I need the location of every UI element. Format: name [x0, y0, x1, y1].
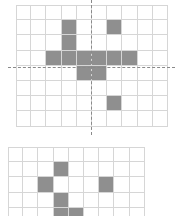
grid-cell — [114, 147, 129, 162]
grid-cell — [31, 5, 46, 20]
grid-cell — [153, 96, 168, 111]
grid-cell — [138, 66, 153, 81]
grid-cell — [8, 177, 23, 192]
grid-cell — [31, 35, 46, 50]
grid-cell — [46, 96, 61, 111]
filled-cell — [92, 66, 107, 81]
grid-cell — [130, 177, 145, 192]
filled-cell — [107, 96, 122, 111]
grid-cell — [23, 147, 38, 162]
grid-cell — [122, 20, 137, 35]
grid-cell — [138, 96, 153, 111]
grid-cell — [16, 66, 31, 81]
grid-cell — [122, 66, 137, 81]
grid-cell — [54, 147, 69, 162]
grid-cell — [69, 162, 84, 177]
grid-cell — [31, 51, 46, 66]
filled-cell — [62, 35, 77, 50]
grid-cell — [99, 193, 114, 208]
grid-cell — [16, 111, 31, 126]
grid-cell — [23, 208, 38, 216]
filled-cell — [69, 208, 84, 216]
grid-cell — [122, 81, 137, 96]
grid-cell — [138, 111, 153, 126]
grid-cell — [99, 147, 114, 162]
grid-cell — [92, 20, 107, 35]
grid-cell — [8, 162, 23, 177]
grid-cell — [153, 5, 168, 20]
grid-cell — [153, 111, 168, 126]
grid-cell — [122, 35, 137, 50]
grid-cell — [16, 5, 31, 20]
grid-cell — [23, 162, 38, 177]
grid-cell — [38, 147, 53, 162]
grid-cell — [46, 81, 61, 96]
grid-cell — [46, 35, 61, 50]
grid-cell — [92, 81, 107, 96]
grid-cell — [114, 208, 129, 216]
grid-cell — [92, 111, 107, 126]
grid-cell — [107, 111, 122, 126]
grid-cell — [84, 162, 99, 177]
grid-cell — [16, 20, 31, 35]
grid-cell — [130, 193, 145, 208]
grid-cell — [107, 66, 122, 81]
grid-cell — [38, 193, 53, 208]
grid-cell — [8, 208, 23, 216]
grid-cell — [16, 81, 31, 96]
grid-cell — [153, 81, 168, 96]
grid-cell — [46, 111, 61, 126]
grid-cell — [16, 51, 31, 66]
filled-cell — [92, 51, 107, 66]
grid-cell — [130, 147, 145, 162]
grid-cell — [16, 35, 31, 50]
grid-cell — [122, 5, 137, 20]
grid-cell — [62, 111, 77, 126]
grid-cell — [130, 208, 145, 216]
grid-cell — [138, 20, 153, 35]
filled-cell — [99, 177, 114, 192]
grid-cell — [8, 193, 23, 208]
grid-cell — [46, 20, 61, 35]
grid-cell — [84, 147, 99, 162]
filled-cell — [122, 51, 137, 66]
grid-cell — [122, 111, 137, 126]
grid-cell — [138, 81, 153, 96]
grid-cell — [77, 20, 92, 35]
grid-cell — [153, 35, 168, 50]
grid-cell — [153, 51, 168, 66]
grid-cell — [31, 96, 46, 111]
grid-cell — [62, 96, 77, 111]
grid-cell — [122, 96, 137, 111]
filled-cell — [62, 20, 77, 35]
grid-cell — [138, 35, 153, 50]
grid-cell — [69, 147, 84, 162]
filled-cell — [77, 51, 92, 66]
filled-cell — [107, 51, 122, 66]
grid-cell — [84, 208, 99, 216]
grid-cell — [46, 5, 61, 20]
grid-cell — [77, 111, 92, 126]
filled-cell — [54, 193, 69, 208]
grid-cell — [31, 20, 46, 35]
grid-cell — [77, 96, 92, 111]
grid-cell — [62, 81, 77, 96]
grid-cell — [31, 66, 46, 81]
filled-cell — [62, 51, 77, 66]
grid-cell — [62, 66, 77, 81]
grid-cell — [84, 177, 99, 192]
grid-cell — [8, 147, 23, 162]
grid-cell — [38, 162, 53, 177]
grid-cell — [138, 51, 153, 66]
grid-cell — [114, 177, 129, 192]
grid-cell — [77, 35, 92, 50]
grid-cell — [31, 81, 46, 96]
grid-cell — [92, 35, 107, 50]
grid-cell — [69, 177, 84, 192]
grid-cell — [62, 5, 77, 20]
filled-cell — [107, 20, 122, 35]
filled-cell — [54, 162, 69, 177]
grid-cell — [114, 193, 129, 208]
grid-cell — [153, 20, 168, 35]
vertical-axis-line — [91, 0, 92, 135]
